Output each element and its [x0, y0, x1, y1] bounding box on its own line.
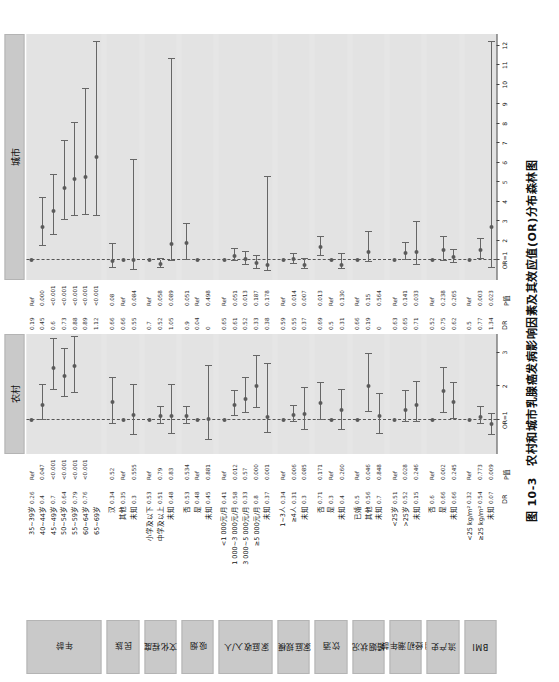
- ci-cap-lower: [130, 434, 137, 435]
- row-label: 否: [317, 506, 324, 513]
- ci-cap-lower: [71, 392, 78, 393]
- p-value: 0.009: [488, 464, 494, 480]
- forest-estimate: [299, 334, 309, 454]
- confidence-interval-line: [304, 388, 305, 430]
- ci-cap-lower: [49, 389, 56, 390]
- dr-value: 0.71: [317, 492, 323, 504]
- point-estimate-marker: [40, 403, 44, 407]
- ci-cap-upper: [108, 377, 115, 378]
- group-band-1: 民族: [106, 620, 138, 674]
- dr-value: 0.58: [232, 492, 238, 504]
- p-value: Ref: [29, 297, 35, 306]
- point-estimate-marker: [441, 248, 445, 252]
- p-value: <0.001: [61, 285, 67, 306]
- p-value: 0.047: [39, 464, 45, 480]
- dr-value: 0.64: [61, 492, 67, 504]
- point-estimate-marker: [131, 413, 135, 417]
- col-head-p: P值: [500, 295, 510, 306]
- row-label: <25 kg/m²: [466, 506, 473, 541]
- panel-urban-body: [26, 34, 496, 280]
- ci-cap-upper: [167, 384, 174, 385]
- forest-estimate: [37, 334, 47, 454]
- row-label: 未知: [487, 506, 494, 520]
- ci-cap-lower: [82, 214, 89, 215]
- ci-cap-lower: [476, 258, 483, 259]
- p-value: 0.498: [205, 290, 211, 306]
- axis-tick: [496, 419, 499, 420]
- axis-tick-label: 5: [500, 180, 507, 184]
- group-band-4: 家庭收入/人: [218, 620, 272, 674]
- forest-estimate: [166, 34, 176, 280]
- dr-value: 0.54: [477, 492, 483, 504]
- row-label: 中学及以上: [157, 506, 164, 541]
- dr-value: 0.33: [253, 318, 259, 330]
- p-value: Ref: [120, 297, 126, 306]
- axis-tick: [496, 103, 499, 104]
- dr-value: 0.53: [146, 492, 152, 504]
- point-estimate-marker: [29, 258, 33, 262]
- point-estimate-marker: [243, 397, 247, 401]
- point-estimate-marker: [110, 259, 114, 263]
- forest-estimate: [192, 34, 202, 280]
- ci-cap-lower: [402, 421, 409, 422]
- forest-estimate: [69, 34, 79, 280]
- row-label: >25岁: [402, 506, 409, 527]
- p-value: 0.046: [365, 464, 371, 480]
- forest-estimate: [181, 34, 191, 280]
- row-label: 小学及以下: [146, 506, 153, 541]
- p-value: Ref: [392, 297, 398, 306]
- row-label: 未知: [263, 506, 270, 520]
- panel-rural: 农村: [26, 334, 496, 454]
- point-estimate-marker: [121, 418, 125, 422]
- confidence-interval-line: [42, 198, 43, 246]
- ci-cap-upper: [301, 387, 308, 388]
- point-estimate-marker: [403, 251, 407, 255]
- ci-cap-upper: [71, 336, 78, 337]
- confidence-interval-line: [63, 349, 64, 396]
- col-head-dr: DR: [500, 494, 508, 504]
- confidence-interval-line: [405, 391, 406, 421]
- dr-value: 0.15: [413, 492, 419, 504]
- ci-cap-upper: [290, 253, 297, 254]
- confidence-interval-line: [74, 123, 75, 216]
- point-estimate-marker: [62, 186, 66, 190]
- ci-cap-upper: [476, 238, 483, 239]
- ci-cap-lower: [253, 407, 260, 408]
- point-estimate-marker: [147, 418, 151, 422]
- point-estimate-marker: [355, 418, 359, 422]
- figure-caption: 图 10-3 农村和城市乳腺癌发病影响因素及其效应值(OR)分布森林图: [522, 0, 538, 682]
- point-estimate-marker: [392, 258, 396, 262]
- dr-value: 0.66: [109, 318, 115, 330]
- p-value: 0.033: [413, 290, 419, 306]
- row-label: 55~59岁: [71, 506, 78, 535]
- ci-cap-upper: [316, 236, 323, 237]
- point-estimate-marker: [302, 412, 306, 416]
- forest-estimate: [486, 334, 496, 454]
- p-value: 0.012: [232, 464, 238, 480]
- ci-cap-upper: [183, 223, 190, 224]
- dr-value: 0.19: [365, 318, 371, 330]
- p-value: Ref: [466, 297, 472, 306]
- forest-estimate: [181, 334, 191, 454]
- dr-value: 0.48: [168, 492, 174, 504]
- dr-value: 0.59: [280, 318, 286, 330]
- point-estimate-marker: [131, 258, 135, 262]
- confidence-interval-line: [85, 89, 86, 215]
- dr-value: 0.61: [232, 318, 238, 330]
- point-estimate-marker: [355, 258, 359, 262]
- forest-estimate: [240, 34, 250, 280]
- row-label: 未知: [413, 506, 420, 520]
- dr-value: 0.35: [120, 492, 126, 504]
- axis-tick: [496, 385, 499, 386]
- point-estimate-marker: [232, 403, 236, 407]
- axis-tick: [496, 220, 499, 221]
- forest-estimate: [229, 34, 239, 280]
- axis-tick-label: 11: [500, 61, 507, 69]
- axis-tick-label: 7: [500, 141, 507, 145]
- dr-value: 0: [376, 326, 382, 330]
- p-value: 0.051: [184, 290, 190, 306]
- p-value: 0.881: [205, 464, 211, 480]
- ci-cap-lower: [167, 433, 174, 434]
- axis-tick-label: 3: [500, 220, 507, 224]
- row-label: ≥25 kg/m²: [477, 506, 484, 541]
